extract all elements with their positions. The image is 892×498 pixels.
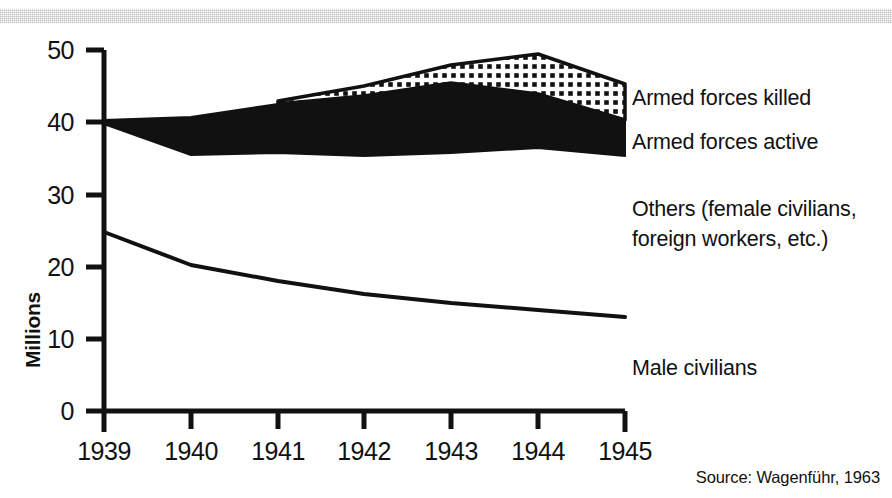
x-tick-label-1943: 1943 bbox=[408, 437, 494, 466]
legend-label-male-civilians: Male civilians bbox=[632, 355, 757, 382]
legend-label-others-line1: Others (female civilians, bbox=[632, 196, 856, 223]
legend-label-armed-forces-killed: Armed forces killed bbox=[632, 85, 811, 112]
y-tick-label-0: 0 bbox=[14, 397, 74, 426]
legend-label-others-line2: foreign workers, etc.) bbox=[632, 226, 828, 253]
legend-label-armed-forces-active: Armed forces active bbox=[632, 129, 818, 156]
y-axis-title: Millions bbox=[21, 275, 45, 385]
series-male-civilians-line bbox=[104, 232, 625, 317]
x-tick-label-1941: 1941 bbox=[235, 437, 321, 466]
x-tick-label-1939: 1939 bbox=[61, 437, 147, 466]
chart-page: 50 40 30 20 10 0 Millions 1939 1940 1941… bbox=[0, 0, 892, 498]
x-tick-label-1945: 1945 bbox=[582, 437, 668, 466]
y-tick-label-30: 30 bbox=[14, 181, 74, 210]
x-axis bbox=[104, 411, 625, 432]
y-tick-label-50: 50 bbox=[14, 36, 74, 65]
source-credit: Source: Wagenführ, 1963 bbox=[696, 468, 880, 487]
x-tick-label-1942: 1942 bbox=[321, 437, 407, 466]
x-tick-label-1940: 1940 bbox=[148, 437, 234, 466]
y-axis bbox=[86, 50, 104, 411]
y-tick-label-40: 40 bbox=[14, 108, 74, 137]
x-tick-label-1944: 1944 bbox=[495, 437, 581, 466]
